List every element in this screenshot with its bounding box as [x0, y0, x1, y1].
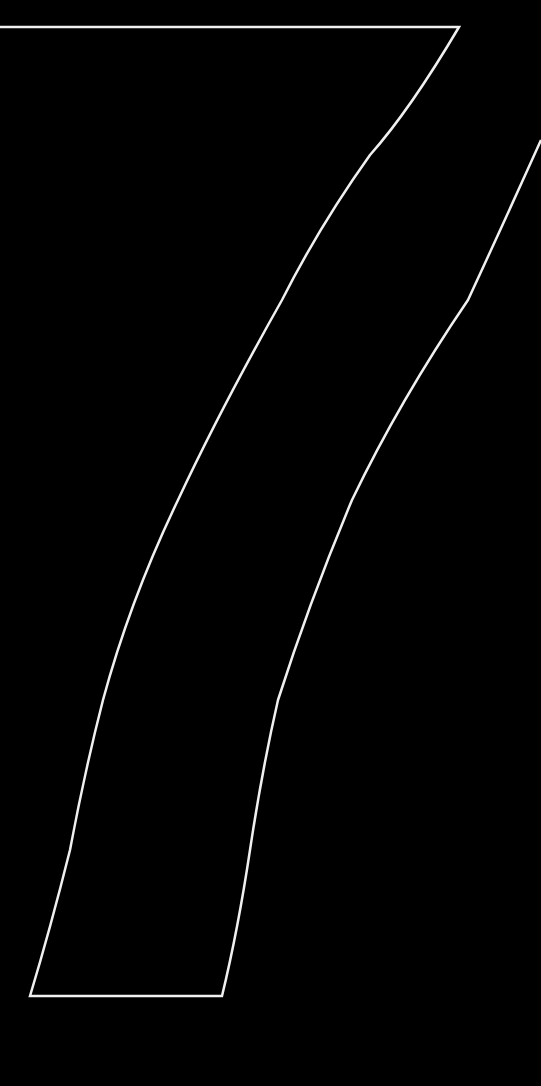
curved-text-band — [0, 0, 541, 1086]
band-outline — [0, 27, 541, 996]
